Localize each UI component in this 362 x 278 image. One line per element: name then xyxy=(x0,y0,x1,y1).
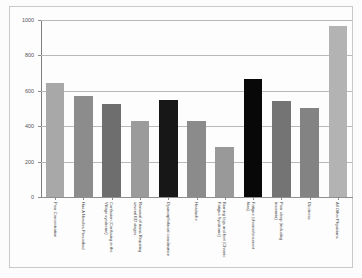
plot-area xyxy=(41,20,352,197)
y-tick-label: 200 xyxy=(4,159,34,165)
bar xyxy=(272,101,291,197)
bar xyxy=(46,83,65,197)
x-tick-mark xyxy=(281,197,282,200)
x-axis-label: Fatigue (chronic/recurrent bias) xyxy=(245,202,254,258)
y-axis: 02004006008001000 xyxy=(0,0,41,278)
x-axis-label: Dysmorphofacial coordination xyxy=(165,202,170,258)
chart-figure: 02004006008001000 Poor ConcentrationHas … xyxy=(0,0,362,278)
bar xyxy=(300,108,319,197)
bar xyxy=(102,104,121,197)
x-axis-label: Headache xyxy=(194,202,199,258)
bar xyxy=(187,121,206,197)
y-tick-label: 1000 xyxy=(4,17,34,23)
x-axis-label: All Other Physicians xyxy=(335,202,340,258)
bar xyxy=(329,26,348,197)
bar xyxy=(215,147,234,197)
x-axis-label: Removal of items Requiring several ED st… xyxy=(132,202,141,258)
gridline-800 xyxy=(41,55,352,56)
x-axis-label: Confusion (Confusing in the Village synd… xyxy=(104,202,113,258)
y-tick-label: 400 xyxy=(4,123,34,129)
x-tick-mark xyxy=(197,197,198,200)
x-tick-mark xyxy=(253,197,254,200)
x-tick-mark xyxy=(225,197,226,200)
gridline-600 xyxy=(41,91,352,92)
gridline-1000 xyxy=(41,20,352,21)
bar xyxy=(74,96,93,197)
y-tick-label: 0 xyxy=(4,194,34,200)
y-tick-label: 800 xyxy=(4,52,34,58)
bar xyxy=(131,121,150,197)
x-tick-mark xyxy=(310,197,311,200)
x-tick-mark xyxy=(338,197,339,200)
x-tick-mark xyxy=(168,197,169,200)
bar xyxy=(159,100,178,197)
x-tick-mark xyxy=(140,197,141,200)
x-axis-label: Poor Concentration xyxy=(52,202,57,258)
x-tick-mark xyxy=(83,197,84,200)
bar xyxy=(244,79,263,197)
x-axis-label: Dizziness xyxy=(307,202,312,258)
x-axis-label: Poor sleep (including insomnia) xyxy=(274,202,283,258)
x-tick-mark xyxy=(55,197,56,200)
x-axis-label: Burning legs and feet (Chronic Fatigue S… xyxy=(217,202,226,258)
x-axis-label: Has A Needles Prescribed xyxy=(80,202,85,258)
x-tick-mark xyxy=(112,197,113,200)
y-tick-label: 600 xyxy=(4,88,34,94)
